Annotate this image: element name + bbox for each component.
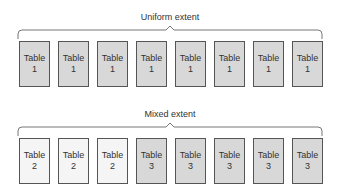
table-number: 1 [305,64,310,75]
table-number: 1 [110,64,115,75]
mixed-extent-title: Mixed extent [0,109,340,119]
table-label: Table [63,150,85,161]
table-block: Table1 [292,41,323,87]
uniform-extent-brace-icon [0,24,340,40]
mixed-extent-brace-icon [0,121,340,137]
table-label: Table [180,150,202,161]
table-number: 2 [71,161,76,172]
table-label: Table [63,53,85,64]
table-block: Table1 [175,41,206,87]
table-block: Table1 [58,41,89,87]
table-label: Table [141,150,163,161]
table-number: 1 [188,64,193,75]
table-number: 2 [110,161,115,172]
table-number: 3 [266,161,271,172]
table-label: Table [297,53,319,64]
table-label: Table [102,150,124,161]
table-block: Table2 [58,138,89,184]
table-block: Table3 [253,138,284,184]
table-number: 1 [227,64,232,75]
table-block: Table2 [19,138,50,184]
table-label: Table [24,53,46,64]
table-label: Table [102,53,124,64]
table-number: 2 [32,161,37,172]
table-block: Table2 [97,138,128,184]
table-label: Table [219,53,241,64]
table-number: 3 [188,161,193,172]
table-block: Table1 [253,41,284,87]
table-number: 1 [32,64,37,75]
table-block: Table1 [214,41,245,87]
table-label: Table [141,53,163,64]
table-number: 3 [305,161,310,172]
table-block: Table3 [136,138,167,184]
table-label: Table [180,53,202,64]
uniform-extent-title: Uniform extent [0,12,340,22]
table-label: Table [258,53,280,64]
table-block: Table3 [214,138,245,184]
table-number: 3 [227,161,232,172]
table-number: 1 [71,64,76,75]
table-label: Table [297,150,319,161]
table-block: Table3 [175,138,206,184]
table-number: 3 [149,161,154,172]
table-label: Table [258,150,280,161]
table-label: Table [24,150,46,161]
table-block: Table3 [292,138,323,184]
table-block: Table1 [19,41,50,87]
table-number: 1 [266,64,271,75]
table-block: Table1 [136,41,167,87]
table-block: Table1 [97,41,128,87]
table-label: Table [219,150,241,161]
table-number: 1 [149,64,154,75]
